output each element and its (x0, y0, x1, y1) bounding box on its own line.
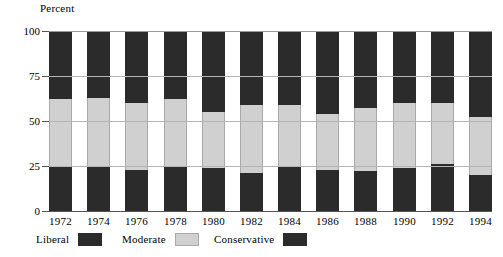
dark-swatch-icon (283, 233, 307, 246)
y-tick-mark-50 (42, 121, 49, 122)
x-tick-label: 1984 (278, 214, 301, 228)
y-tick-mark-0 (42, 211, 49, 212)
x-tick-label: 1974 (87, 214, 110, 228)
legend-item-liberal[interactable]: Liberal (36, 232, 102, 247)
y-tick-label-75: 75 (10, 71, 40, 82)
bar-segment-conservative[interactable] (278, 31, 301, 105)
bar-segment-moderate[interactable] (164, 99, 187, 166)
bar-segment-moderate[interactable] (278, 105, 301, 166)
bar-segment-conservative[interactable] (354, 31, 377, 108)
x-tick-label: 1988 (354, 214, 377, 228)
bar-segment-conservative[interactable] (87, 31, 110, 98)
y-tick-label-25: 25 (10, 161, 40, 172)
bar-segment-conservative[interactable] (431, 31, 454, 103)
bar-segment-moderate[interactable] (87, 98, 110, 166)
bar-segment-liberal[interactable] (431, 164, 454, 211)
legend-item-label: Moderate (122, 233, 166, 246)
x-tick-label: 1992 (431, 214, 454, 228)
bar-segment-liberal[interactable] (393, 168, 416, 211)
y-tick-mark-100 (42, 31, 49, 32)
y-tick-label-50: 50 (10, 116, 40, 127)
x-tick-label: 1978 (164, 214, 187, 228)
bar-segment-conservative[interactable] (164, 31, 187, 99)
gridline-0: 0 (49, 211, 492, 212)
chart-legend: LiberalModerateConservative (36, 232, 336, 250)
bar-segment-liberal[interactable] (202, 168, 225, 211)
bar-segment-moderate[interactable] (125, 103, 148, 170)
bar-segment-moderate[interactable] (393, 103, 416, 168)
bar-segment-liberal[interactable] (278, 166, 301, 211)
y-tick-mark-75 (42, 76, 49, 77)
light-swatch-icon (175, 233, 199, 246)
bar-segment-liberal[interactable] (240, 173, 263, 211)
bar-segment-liberal[interactable] (164, 166, 187, 211)
x-tick-label: 1972 (49, 214, 72, 228)
bar-segment-moderate[interactable] (49, 99, 72, 166)
bar-segment-moderate[interactable] (316, 114, 339, 170)
bar-segment-conservative[interactable] (202, 31, 225, 112)
bar-segment-liberal[interactable] (354, 171, 377, 211)
legend-item-label: Liberal (36, 233, 69, 246)
gridline-50: 50 (49, 121, 492, 122)
bar-segment-liberal[interactable] (469, 175, 492, 211)
bar-segment-conservative[interactable] (240, 31, 263, 105)
legend-item-moderate[interactable]: Moderate (122, 232, 199, 247)
bar-segment-conservative[interactable] (316, 31, 339, 114)
bar-segment-moderate[interactable] (354, 108, 377, 171)
bar-segment-conservative[interactable] (49, 31, 72, 99)
bar-segment-liberal[interactable] (87, 166, 110, 211)
bar-segment-liberal[interactable] (49, 166, 72, 211)
legend-item-label: Conservative (214, 233, 274, 246)
bar-segment-moderate[interactable] (240, 105, 263, 173)
x-tick-label: 1990 (393, 214, 416, 228)
y-tick-label-0: 0 (10, 206, 40, 217)
gridline-25: 25 (49, 166, 492, 167)
y-tick-mark-25 (42, 166, 49, 167)
legend-item-conservative[interactable]: Conservative (214, 232, 307, 247)
bar-segment-conservative[interactable] (393, 31, 416, 103)
gridline-100: 100 (49, 31, 492, 32)
y-tick-label-100: 100 (10, 26, 40, 37)
gridline-75: 75 (49, 76, 492, 77)
bar-segment-moderate[interactable] (431, 103, 454, 164)
bar-segment-conservative[interactable] (125, 31, 148, 103)
y-axis-title: Percent (40, 2, 74, 15)
x-tick-label: 1982 (240, 214, 263, 228)
plot-area: 0255075100 (49, 31, 492, 211)
x-tick-label: 1994 (469, 214, 492, 228)
x-tick-label: 1976 (125, 214, 148, 228)
chart-root: Percent 0255075100 197219741976197819801… (0, 0, 503, 257)
bar-segment-liberal[interactable] (316, 170, 339, 211)
x-tick-label: 1980 (202, 214, 225, 228)
dark-swatch-icon (78, 233, 102, 246)
bar-segment-conservative[interactable] (469, 31, 492, 117)
x-tick-label: 1986 (316, 214, 339, 228)
x-axis-labels: 1972197419761978198019821984198619881990… (49, 214, 492, 230)
bar-segment-liberal[interactable] (125, 170, 148, 211)
